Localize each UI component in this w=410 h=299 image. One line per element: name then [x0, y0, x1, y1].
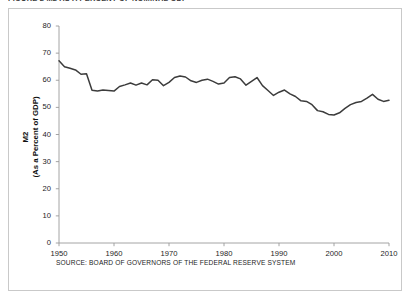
x-tick-label: 1950: [42, 249, 76, 258]
y-tick-label: 80: [29, 21, 51, 30]
x-tick-label: 1960: [97, 249, 131, 258]
x-tick-label: 1970: [152, 249, 186, 258]
y-tick-label: 30: [29, 157, 51, 166]
x-tick-label: 2000: [317, 249, 351, 258]
x-tick-label: 1980: [207, 249, 241, 258]
y-tick-label: 0: [29, 238, 51, 247]
plot-area: M2 (As a Percent of GDP) 010203040506070…: [9, 9, 403, 292]
y-tick-label: 40: [29, 130, 51, 139]
y-tick-label: 20: [29, 184, 51, 193]
y-tick-label: 50: [29, 102, 51, 111]
x-tick-label: 2010: [372, 249, 406, 258]
figure-caption: FIGURE 2 M2 AS A PERCENT OF NOMINAL GDP: [8, 0, 403, 5]
source-note: SOURCE: BOARD OF GOVERNORS OF THE FEDERA…: [56, 259, 295, 266]
y-tick-label: 70: [29, 48, 51, 57]
data-line: [59, 61, 389, 115]
y-tick-label: 60: [29, 75, 51, 84]
x-tick-label: 1990: [262, 249, 296, 258]
y-tick-label: 10: [29, 211, 51, 220]
chart-panel: M2 (As a Percent of GDP) 010203040506070…: [8, 8, 402, 291]
figure-root: FIGURE 2 M2 AS A PERCENT OF NOMINAL GDP …: [0, 0, 410, 299]
